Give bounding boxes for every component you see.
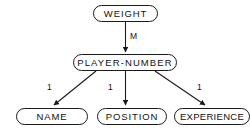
edge-label-weight-to-player-number: M [130,32,137,41]
node-position-label: POSITION [106,112,159,122]
edge-player-number-to-name [54,71,96,105]
node-player-number-label: PLAYER-NUMBER [77,58,172,68]
node-name[interactable]: NAME [16,108,88,125]
node-experience[interactable]: EXPERIENCE [174,108,250,125]
node-player-number[interactable]: PLAYER-NUMBER [73,54,177,71]
edge-label-player-number-to-name: 1 [47,83,52,92]
node-position[interactable]: POSITION [97,108,167,125]
edge-label-player-number-to-experience: 1 [197,83,202,92]
node-name-label: NAME [36,112,67,122]
node-weight[interactable]: WEIGHT [93,5,158,22]
data-structure-diagram: WEIGHT PLAYER-NUMBER NAME POSITION EXPER… [0,0,250,131]
edge-label-player-number-to-position: 1 [108,83,113,92]
node-experience-label: EXPERIENCE [180,112,244,122]
node-weight-label: WEIGHT [104,9,147,19]
